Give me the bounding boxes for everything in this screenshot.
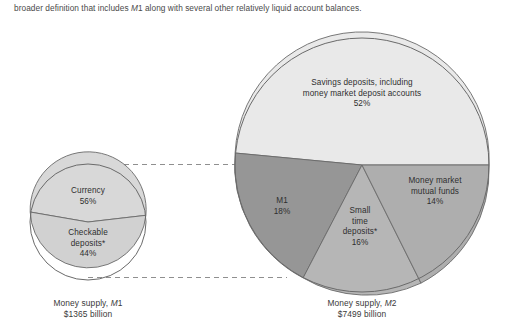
m2-label-savings-line-1: Savings deposits, including: [272, 78, 452, 89]
m1-label-checkable-value: 44%: [30, 249, 146, 260]
m1-caption-italic: M: [111, 298, 118, 308]
m2-label-savings-line-2: money market deposit accounts: [272, 89, 452, 100]
m2-label-m1: M1 18%: [256, 196, 308, 217]
m2-label-small-time-line-1: Small: [332, 206, 388, 217]
m2-label-small-time-line-3: deposits*: [332, 227, 388, 238]
m2-caption-italic: M: [385, 298, 392, 308]
m2-caption-line-2: $7499 billion: [292, 309, 432, 320]
m2-label-mmmf-value: 14%: [395, 197, 475, 208]
m1-label-checkable-line-2: deposits*: [30, 239, 146, 250]
m2-caption: Money supply, M2 $7499 billion: [292, 298, 432, 321]
m1-label-checkable-deposits: Checkable deposits* 44%: [30, 228, 146, 260]
m2-label-savings-deposits: Savings deposits, including money market…: [272, 78, 452, 110]
m2-label-money-market-mutual-funds: Money market mutual funds 14%: [395, 176, 475, 208]
m1-label-currency: Currency 56%: [36, 186, 140, 207]
m1-caption-line-1: Money supply, M1: [20, 298, 156, 309]
m1-caption-prefix: Money supply,: [54, 298, 111, 308]
m2-label-small-time-deposits: Small time deposits* 16%: [332, 206, 388, 248]
m2-caption-suffix: 2: [392, 298, 397, 308]
m2-pie: [235, 32, 490, 295]
m2-label-m1-text: M1: [256, 196, 308, 207]
m1-caption-line-2: $1365 billion: [20, 309, 156, 320]
m1-pie: [30, 152, 146, 280]
m2-label-mmmf-line-1: Money market: [395, 176, 475, 187]
figure-stage: Currency 56% Checkable deposits* 44% Sav…: [0, 0, 508, 335]
m2-caption-line-1: Money supply, M2: [292, 298, 432, 309]
m2-label-small-time-line-2: time: [332, 217, 388, 228]
m1-caption-suffix: 1: [118, 298, 123, 308]
m2-label-savings-value: 52%: [272, 99, 452, 110]
m2-label-m1-value: 18%: [256, 207, 308, 218]
m1-label-checkable-line-1: Checkable: [30, 228, 146, 239]
m1-caption: Money supply, M1 $1365 billion: [20, 298, 156, 321]
m2-label-m1-suffix: 1: [283, 196, 288, 205]
m2-caption-prefix: Money supply,: [328, 298, 385, 308]
pie-charts-svg: [0, 0, 508, 335]
m1-label-currency-value: 56%: [36, 197, 140, 208]
m2-label-mmmf-line-2: mutual funds: [395, 187, 475, 198]
m2-label-small-time-value: 16%: [332, 238, 388, 249]
m1-label-currency-text: Currency: [36, 186, 140, 197]
